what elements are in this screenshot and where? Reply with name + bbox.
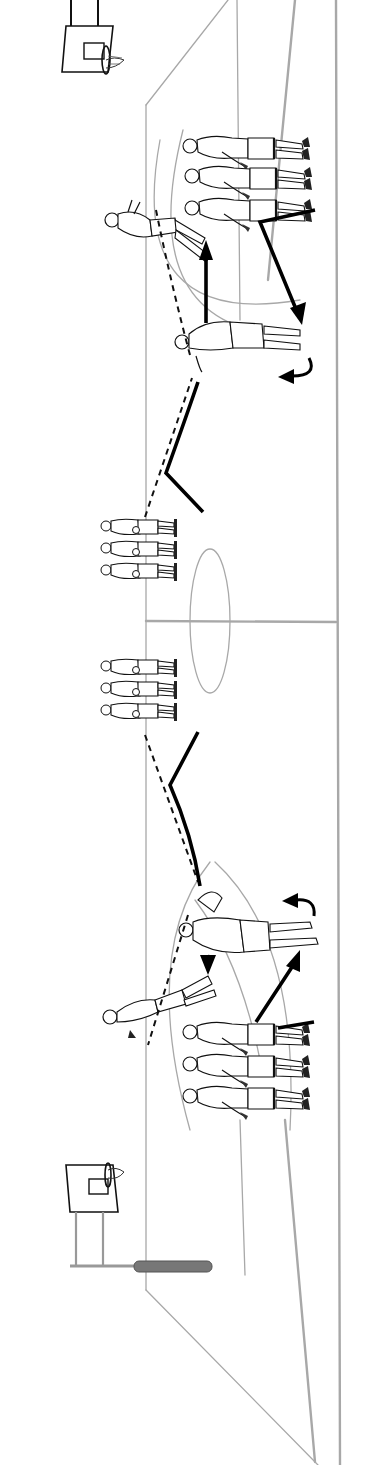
top-lane-line-far [237, 0, 240, 320]
player [183, 136, 310, 170]
arrow-head-icon [286, 950, 300, 972]
near-sideline [336, 0, 340, 1465]
bottom-pivot-turn [282, 893, 314, 916]
top-pivot-turn [278, 358, 311, 384]
bottom-lane-line-far [240, 1120, 245, 1275]
drill-diagram [0, 0, 366, 1465]
player [101, 703, 177, 721]
bottom-baseline-line [183, 1022, 310, 1120]
player [101, 519, 177, 537]
court-illustration [0, 0, 366, 1465]
bottom-drive-to-basket [200, 955, 216, 975]
player [101, 659, 177, 677]
top-baseline [146, 0, 228, 105]
bottom-lane-line-near [285, 1120, 315, 1462]
arrow-head-icon [282, 893, 298, 908]
bottom-center-line [101, 659, 177, 721]
top-basket [62, 0, 124, 74]
top-pass-to-receiver [145, 378, 192, 517]
top-receiver [175, 322, 300, 372]
player [101, 681, 177, 699]
bottom-baseline [146, 1290, 318, 1465]
player [185, 166, 312, 200]
bottom-basket [66, 1163, 212, 1272]
player [101, 541, 177, 559]
player [101, 563, 177, 581]
bottom-cut-from-line [256, 950, 314, 1028]
arrow-head-icon [290, 302, 306, 325]
bottom-v-cut [170, 732, 200, 886]
top-backboard [62, 26, 113, 72]
arrow-head-icon [200, 955, 216, 975]
arrow-head-icon [278, 369, 294, 384]
top-center-line [101, 519, 177, 581]
half-court-line [146, 621, 336, 622]
top-baseline-line [183, 136, 312, 232]
bottom-pass-to-receiver [145, 735, 198, 882]
bottom-basket-padding [134, 1261, 212, 1272]
